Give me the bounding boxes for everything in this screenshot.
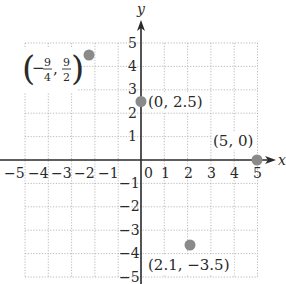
point-neg9over4-9over2 bbox=[84, 50, 95, 61]
label-num2: 9 bbox=[63, 56, 70, 69]
point-label-5-0: (5, 0) bbox=[213, 132, 253, 150]
y-tick: −4 bbox=[119, 245, 140, 261]
label-rparen: ) bbox=[71, 48, 84, 88]
coordinate-plane: x y −5 −4 −3 −2 −1 0 1 2 3 4 5 5 4 3 2 1… bbox=[0, 0, 286, 284]
y-tick: 3 bbox=[128, 81, 137, 97]
point-0-2.5 bbox=[136, 96, 147, 107]
point-2.1-neg3.5 bbox=[185, 240, 196, 251]
label-den2: 2 bbox=[63, 71, 70, 84]
label-den1: 4 bbox=[44, 71, 51, 84]
y-tick: 1 bbox=[128, 128, 137, 144]
point-5-0 bbox=[252, 155, 263, 166]
x-tick: 4 bbox=[230, 165, 239, 181]
y-tick: 2 bbox=[128, 105, 137, 121]
y-tick: −3 bbox=[119, 222, 140, 238]
label-num1: 9 bbox=[44, 56, 51, 69]
y-tick: −1 bbox=[119, 175, 140, 191]
x-tick: 2 bbox=[184, 165, 193, 181]
y-tick: 5 bbox=[128, 35, 137, 51]
x-tick: 1 bbox=[161, 165, 170, 181]
x-tick: −5 bbox=[4, 165, 25, 181]
y-tick: 4 bbox=[128, 58, 137, 74]
point-label-0-2.5: (0, 2.5) bbox=[148, 93, 203, 111]
y-tick: −5 bbox=[119, 269, 140, 284]
x-tick: 5 bbox=[253, 165, 262, 181]
point-label-2.1-neg3.5: (2.1, −3.5) bbox=[148, 256, 230, 274]
label-comma: , bbox=[53, 60, 58, 78]
point-label-neg9over4-9over2: ( − 9 4 , 9 2 ) bbox=[22, 48, 84, 92]
x-tick: 3 bbox=[207, 165, 216, 181]
x-tick: −4 bbox=[28, 165, 49, 181]
x-tick: −1 bbox=[98, 165, 119, 181]
y-axis-label: y bbox=[136, 1, 146, 17]
x-axis-label: x bbox=[278, 152, 286, 168]
x-tick: −3 bbox=[51, 165, 72, 181]
x-tick: −2 bbox=[74, 165, 95, 181]
y-tick: −2 bbox=[119, 198, 140, 214]
label-minus: − bbox=[32, 59, 45, 77]
x-tick: 0 bbox=[144, 165, 153, 181]
